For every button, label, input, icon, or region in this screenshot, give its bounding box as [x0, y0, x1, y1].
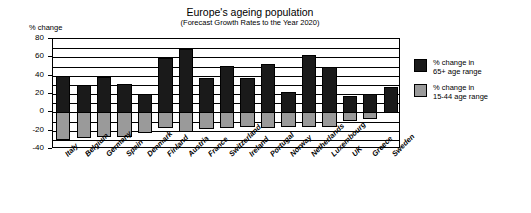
bar-65plus [179, 49, 193, 113]
bar-65plus [343, 96, 357, 114]
legend-swatch-icon [414, 59, 427, 72]
bar-65plus [56, 76, 70, 114]
legend-label-line2: 65+ age range [433, 67, 482, 76]
chart-title-block: Europe's ageing population (Forecast Gro… [105, 6, 395, 27]
legend-swatch-icon [414, 84, 427, 97]
legend-label-line1: % change in [433, 83, 488, 92]
bar-65plus [199, 78, 213, 114]
y-axis-tick-label: 60 [18, 52, 44, 60]
bar-group [220, 39, 234, 147]
bar-65plus [240, 78, 254, 114]
bar-15-44 [302, 112, 316, 127]
chart-subtitle: (Forecast Growth Rates to the Year 2020) [105, 18, 395, 27]
y-axis-tick-label: 20 [18, 89, 44, 97]
bar-group [179, 39, 193, 147]
bar-15-44 [220, 112, 234, 128]
bar-group [261, 39, 275, 147]
y-axis-label: % change [29, 23, 62, 32]
bar-65plus [77, 85, 91, 114]
page-title: Europe's ageing population [105, 6, 395, 18]
bar-15-44 [179, 112, 193, 132]
y-axis-tick [48, 148, 52, 149]
bar-group [384, 39, 398, 147]
bar-65plus [281, 92, 295, 113]
bar-15-44 [261, 112, 275, 128]
bar-65plus [97, 77, 111, 114]
bar-15-44 [158, 112, 172, 128]
bar-65plus [363, 94, 377, 113]
y-axis-tick-label: 40 [18, 71, 44, 79]
bar-15-44 [199, 112, 213, 129]
bar-65plus [384, 87, 398, 114]
y-axis-tick-label: 80 [18, 34, 44, 42]
bar-group [302, 39, 316, 147]
chart-figure: Europe's ageing population (Forecast Gro… [0, 0, 531, 213]
bar-15-44 [77, 112, 91, 138]
bar-65plus [302, 55, 316, 114]
bar-15-44 [56, 112, 70, 140]
bar-65plus [220, 66, 234, 114]
y-axis-tick-label: -40 [18, 144, 44, 152]
chart-legend: % change in65+ age range% change in15-44… [414, 58, 526, 108]
legend-item: % change in65+ age range [414, 58, 526, 76]
y-axis-tick-label: -20 [18, 126, 44, 134]
bar-65plus [261, 64, 275, 114]
bar-65plus [322, 67, 336, 113]
bar-65plus [117, 84, 131, 113]
bar-group [56, 39, 70, 147]
bar-group [138, 39, 152, 147]
legend-label: % change in15-44 age range [433, 83, 488, 101]
bar-65plus [158, 58, 172, 113]
bar-15-44 [138, 112, 152, 133]
bar-15-44 [363, 112, 377, 118]
y-axis-tick-label: 0 [18, 107, 44, 115]
bar-group [363, 39, 377, 147]
legend-label-line1: % change in [433, 58, 482, 67]
legend-label-line2: 15-44 age range [433, 92, 488, 101]
bar-65plus [138, 94, 152, 113]
bar-group [199, 39, 213, 147]
legend-item: % change in15-44 age range [414, 83, 526, 101]
bar-group [77, 39, 91, 147]
legend-label: % change in65+ age range [433, 58, 482, 76]
bar-15-44 [343, 112, 357, 121]
bar-15-44 [281, 112, 295, 127]
